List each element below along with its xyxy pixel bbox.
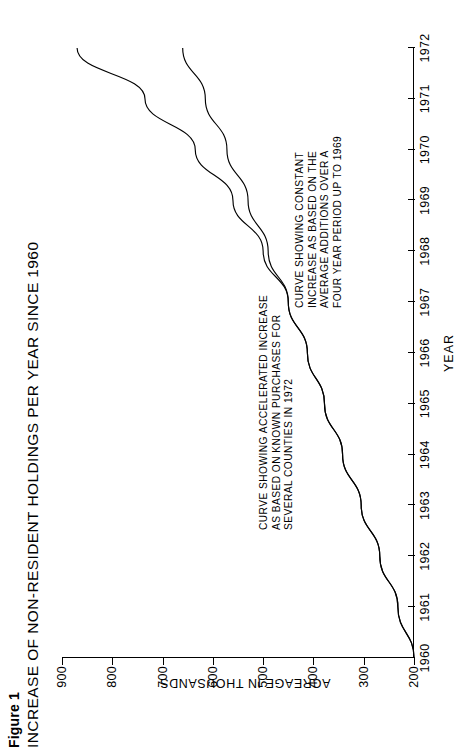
x-tick-label: 1966 (418, 338, 432, 367)
y-axis-title: ACREAGE IN THOUSANDS (145, 676, 345, 690)
y-tick-label: 800 (105, 666, 119, 700)
x-tick-label: 1970 (418, 135, 432, 164)
curve-accelerated (77, 48, 414, 658)
y-tick (364, 658, 365, 665)
rotated-chart-canvas: Figure 1 INCREASE OF NON-RESIDENT HOLDIN… (0, 0, 455, 750)
y-tick (62, 658, 63, 665)
x-tick-label: 1965 (418, 389, 432, 418)
y-tick (414, 658, 415, 665)
x-tick-label: 1962 (418, 542, 432, 571)
y-tick (263, 658, 264, 665)
plot-area: 1960196119621963196419651966196719681969… (62, 48, 414, 658)
y-tick (213, 658, 214, 665)
x-tick-label: 1968 (418, 237, 432, 266)
x-tick-label: 1967 (418, 288, 432, 317)
annotation-accelerated-curve: CURVE SHOWING ACCELERATED INCREASE AS BA… (258, 295, 296, 530)
figure-number: Figure 1 (6, 692, 22, 748)
y-tick-label: 200 (407, 666, 421, 700)
x-tick-label: 1972 (418, 33, 432, 62)
x-tick-label: 1964 (418, 440, 432, 469)
y-tick-label: 900 (55, 666, 69, 700)
data-curves (62, 48, 414, 658)
x-tick-label: 1971 (418, 84, 432, 113)
y-tick (112, 658, 113, 665)
figure-page: Figure 1 INCREASE OF NON-RESIDENT HOLDIN… (0, 0, 455, 750)
y-tick-label: 300 (357, 666, 371, 700)
x-tick-label: 1961 (418, 593, 432, 622)
annotation-constant-curve: CURVE SHOWING CONSTANT INCREASE AS BASED… (294, 136, 344, 308)
page-title: INCREASE OF NON-RESIDENT HOLDINGS PER YE… (24, 242, 42, 748)
y-tick (163, 658, 164, 665)
x-tick-label: 1969 (418, 186, 432, 215)
x-axis-title: YEAR (442, 334, 455, 372)
y-tick (313, 658, 314, 665)
x-tick-label: 1963 (418, 491, 432, 520)
